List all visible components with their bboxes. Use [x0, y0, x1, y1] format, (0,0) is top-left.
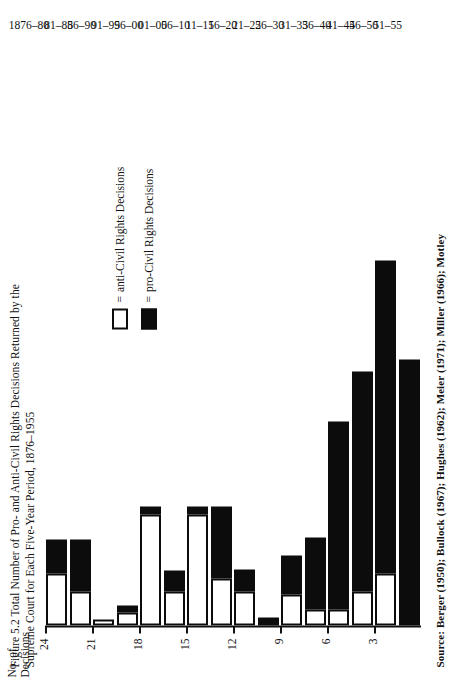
legend-item: =anti-Civil Rights Decisions	[112, 166, 128, 329]
bar-row[interactable]	[352, 25, 373, 625]
bar-row[interactable]	[305, 25, 326, 625]
value-axis-title: No. of Decisions	[6, 623, 32, 677]
bar-segment-pro	[140, 506, 161, 514]
stacked-bar[interactable]	[281, 555, 302, 625]
bar-segment-anti	[234, 591, 255, 625]
bar-group	[45, 25, 421, 625]
chart-legend: =anti-Civil Rights Decisions=pro-Civil R…	[112, 166, 170, 329]
legend-label: anti-Civil Rights Decisions	[114, 166, 126, 291]
stacked-bar[interactable]	[305, 537, 326, 625]
bar-segment-pro	[375, 260, 396, 573]
bar-segment-pro	[46, 539, 67, 573]
value-axis-tick: 18	[139, 626, 141, 633]
value-axis-tick-label: 9	[273, 638, 285, 644]
category-label: 51–55	[373, 18, 402, 30]
value-axis-title-line-1: No. of	[6, 623, 19, 677]
stacked-bar[interactable]	[352, 371, 373, 625]
bar-segment-anti	[46, 573, 67, 625]
bar-row[interactable]	[375, 25, 396, 625]
legend-equals-sign: =	[143, 296, 155, 303]
figure-root: Figure 5.2 Total Number of Pro- and Anti…	[0, 0, 460, 681]
bar-row[interactable]	[70, 25, 91, 625]
legend-swatch-pro-icon	[141, 308, 157, 329]
stacked-bar[interactable]	[187, 506, 208, 625]
stacked-bar[interactable]	[328, 421, 349, 625]
value-axis-tick-label: 18	[132, 638, 144, 650]
bar-row[interactable]	[46, 25, 67, 625]
bar-segment-pro	[70, 539, 91, 591]
value-axis-title-line-2: Decisions	[19, 623, 32, 677]
bar-segment-anti	[70, 591, 91, 625]
bar-segment-pro	[234, 569, 255, 591]
bar-segment-anti	[117, 612, 138, 625]
stacked-bar[interactable]	[399, 359, 420, 625]
stacked-bar[interactable]	[258, 617, 279, 625]
value-axis-tick: 15	[186, 626, 188, 633]
bar-segment-anti	[211, 578, 232, 625]
bar-row[interactable]	[211, 25, 232, 625]
value-axis-tick-label: 6	[320, 638, 332, 644]
chart-plot-area: No. of Decisions 3691215182124 1876–8081…	[0, 0, 460, 681]
bar-segment-anti	[281, 594, 302, 625]
value-axis-tick: 21	[92, 626, 94, 633]
bar-segment-anti	[375, 573, 396, 625]
value-axis-tick: 12	[233, 626, 235, 633]
value-axis-tick: 3	[374, 626, 376, 633]
bar-row[interactable]	[399, 25, 420, 625]
category-label: 1876–80	[9, 18, 49, 30]
bar-segment-pro	[352, 371, 373, 590]
bar-segment-pro	[399, 359, 420, 625]
legend-item: =pro-Civil Rights Decisions	[141, 166, 157, 329]
bar-segment-pro	[281, 555, 302, 594]
stacked-bar[interactable]	[70, 539, 91, 625]
bar-row[interactable]	[281, 25, 302, 625]
value-axis-tick-label: 12	[226, 638, 238, 650]
value-axis-tick-label: 24	[38, 638, 50, 650]
value-axis-tick-label: 3	[367, 638, 379, 644]
bar-segment-anti	[187, 514, 208, 625]
bar-segment-pro	[305, 537, 326, 609]
bar-segment-anti	[352, 591, 373, 625]
stacked-bar[interactable]	[117, 605, 138, 625]
bar-segment-pro	[211, 506, 232, 578]
bar-segment-pro	[328, 421, 349, 609]
legend-swatch-anti-icon	[112, 308, 128, 329]
stacked-bar[interactable]	[234, 569, 255, 625]
value-axis-tick-label: 15	[179, 638, 191, 650]
stacked-bar[interactable]	[46, 539, 67, 625]
value-axis-tick: 6	[327, 626, 329, 633]
legend-equals-sign: =	[114, 296, 126, 303]
bar-segment-anti	[140, 514, 161, 625]
stacked-bar[interactable]	[140, 506, 161, 625]
bar-segment-pro	[258, 617, 279, 625]
bar-row[interactable]	[328, 25, 349, 625]
bar-segment-pro	[187, 506, 208, 514]
bar-segment-anti	[328, 609, 349, 625]
stacked-bar[interactable]	[211, 506, 232, 625]
bar-segment-pro	[117, 605, 138, 613]
value-axis-tick: 9	[280, 626, 282, 633]
bar-segment-anti	[93, 619, 114, 625]
bar-row[interactable]	[187, 25, 208, 625]
bar-row[interactable]	[234, 25, 255, 625]
stacked-bar[interactable]	[375, 260, 396, 625]
bar-segment-pro	[164, 570, 185, 590]
legend-label: pro-Civil Rights Decisions	[143, 168, 155, 291]
bar-segment-anti	[164, 591, 185, 625]
bar-segment-anti	[305, 609, 326, 625]
stacked-bar[interactable]	[93, 619, 114, 625]
bar-row[interactable]	[258, 25, 279, 625]
value-axis-tick-label: 21	[85, 638, 97, 650]
stacked-bar[interactable]	[164, 570, 185, 625]
value-axis-tick: 24	[45, 626, 47, 633]
source-note: Source: Berger (1950); Bullock (1967); H…	[434, 233, 446, 667]
